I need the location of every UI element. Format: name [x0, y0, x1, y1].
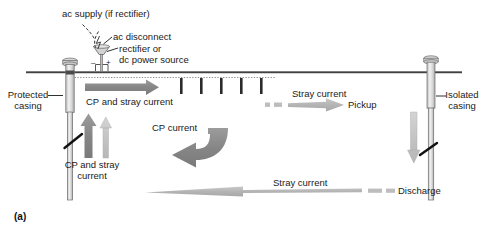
anode-tick-marks [180, 78, 263, 94]
cp-and-stray-current-top-label: CP and stray current [86, 96, 173, 107]
cp-and-stray-current-left-label-line1: CP and stray [59, 159, 125, 170]
stray-current-upper-label: Stray current [292, 88, 346, 99]
cp-and-stray-current-arrow-top [85, 80, 159, 96]
isolated-casing-well [424, 56, 438, 200]
ground-surface-line [26, 71, 462, 73]
ac-supply-label: ac supply (if rectifier) [62, 8, 150, 19]
cp-and-stray-current-left-label-line2: current [59, 170, 125, 181]
cp-current-curved-arrow [172, 128, 228, 168]
isolated-casing-label-line1: Isolated [443, 89, 481, 100]
protected-casing-label-line2: casing [6, 100, 50, 111]
isolated-casing-label-line2: casing [443, 100, 481, 111]
diagram-canvas [0, 0, 481, 237]
figure-cathodic-protection-stray-current: ac supply (if rectifier) ac disconnect r… [0, 0, 481, 237]
panel-label: (a) [14, 211, 26, 222]
rectifier-label-line2: dc power source [119, 54, 189, 65]
pickup-label: Pickup [348, 99, 377, 110]
ac-disconnect-leader [104, 37, 113, 44]
rectifier-negative-terminal-label: – [91, 58, 95, 67]
discharge-label: Discharge [398, 185, 441, 196]
ac-disconnect-label: ac disconnect [113, 31, 171, 42]
stray-current-discharge-arrow [145, 187, 395, 197]
rectifier-positive-terminal-label: + [106, 58, 111, 67]
rectifier-leader [107, 48, 118, 52]
stray-current-lower-label: Stray current [273, 177, 327, 188]
cp-current-label: CP current [152, 122, 197, 133]
protected-casing-label-line1: Protected [6, 89, 50, 100]
rectifier-label-line1: rectifier or [119, 43, 161, 54]
stray-current-pickup-arrow [265, 98, 344, 111]
